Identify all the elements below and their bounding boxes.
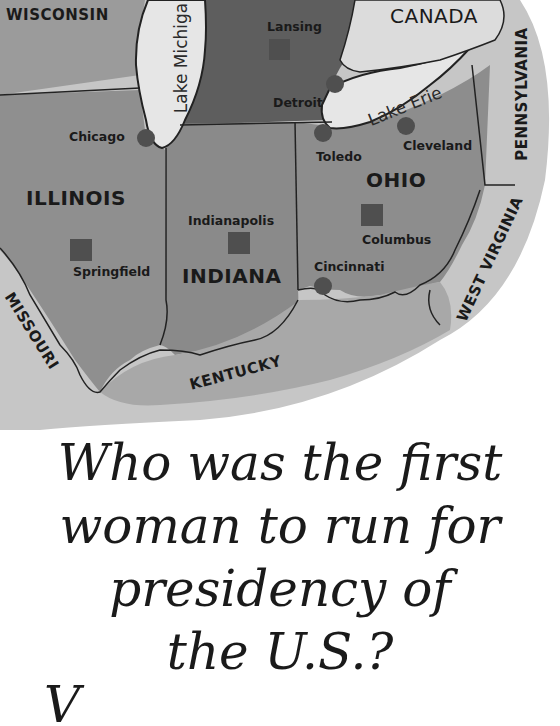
answer-partial: V	[44, 676, 80, 726]
chicago-city-marker	[137, 129, 155, 147]
columbus-capital-marker	[361, 204, 383, 226]
toledo-city-marker	[314, 124, 332, 142]
cleveland-city-marker	[397, 117, 415, 135]
question-line-3: presidency of	[0, 558, 560, 621]
cincinnati-city-marker	[314, 277, 332, 295]
label-canada: CANADA	[390, 4, 478, 28]
detroit-city-marker	[326, 75, 344, 93]
springfield-capital-marker	[70, 239, 92, 261]
label-chicago: Chicago	[69, 129, 125, 144]
label-detroit: Detroit	[273, 95, 323, 110]
quiz-question: Who was the first woman to run for presi…	[0, 432, 560, 684]
label-wisconsin: WISCONSIN	[6, 6, 109, 24]
label-pennsylvania: PENNSYLVANIA	[513, 27, 531, 160]
label-indiana: INDIANA	[182, 264, 281, 288]
label-lansing: Lansing	[267, 19, 322, 34]
question-line-4: the U.S.?	[0, 621, 560, 684]
question-line-2: woman to run for	[0, 495, 560, 558]
label-columbus: Columbus	[362, 232, 431, 247]
indianapolis-capital-marker	[228, 232, 250, 254]
label-illinois: ILLINOIS	[26, 186, 126, 210]
label-cincinnati: Cincinnati	[314, 259, 385, 274]
label-indianapolis: Indianapolis	[188, 213, 274, 228]
lansing-capital-marker	[269, 39, 290, 60]
question-line-1: Who was the first	[0, 432, 560, 495]
label-toledo: Toledo	[316, 149, 362, 164]
label-springfield: Springfield	[73, 264, 150, 279]
label-ohio: OHIO	[366, 168, 426, 192]
label-lake-michigan: Lake Michiga	[171, 3, 191, 113]
label-cleveland: Cleveland	[403, 138, 472, 153]
